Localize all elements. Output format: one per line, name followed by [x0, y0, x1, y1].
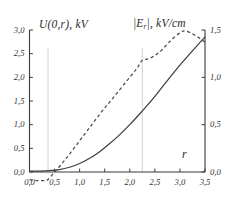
plot-canvas — [0, 0, 236, 201]
left-tick-label-1: 0,5 — [8, 143, 25, 153]
x-tick-label-0: 0,0 — [20, 177, 40, 187]
series-u-solid-line — [30, 37, 206, 171]
x-tick-label-1: 0,5 — [45, 177, 65, 187]
left-tick-label-4: 2,0 — [8, 72, 25, 82]
x-tick-label-2: 1,0 — [70, 177, 90, 187]
x-tick-label-7: 3,5 — [195, 177, 215, 187]
axis-layer — [30, 30, 206, 172]
right-tick-label-0: 0,0 — [210, 167, 228, 177]
right-tick-label-2: 1,0 — [210, 72, 228, 82]
left-tick-label-0: 0,0 — [8, 167, 25, 177]
x-tick-label-4: 2,0 — [120, 177, 140, 187]
x-tick-label-3: 1,5 — [95, 177, 115, 187]
figure-container: U(0,r), kV |Er|, kV/cm r 0,00,51,01,52,0… — [0, 0, 236, 201]
x-tick-label-6: 3,0 — [170, 177, 190, 187]
left-tick-label-3: 1,5 — [8, 96, 25, 106]
right-tick-label-1: 0,5 — [210, 119, 228, 129]
right-tick-label-3: 1,5 — [210, 25, 228, 35]
left-tick-label-5: 2,5 — [8, 48, 25, 58]
x-tick-label-5: 2,5 — [145, 177, 165, 187]
gridline-layer — [48, 48, 142, 172]
series-efield-dashed-line — [30, 31, 206, 181]
left-axis-title: U(0,r), kV — [39, 18, 88, 30]
right-axis-title-tail: |, kV/cm — [147, 17, 186, 29]
right-axis-title-main: |E — [133, 17, 144, 29]
left-tick-label-2: 1,0 — [8, 119, 25, 129]
x-axis-title: r — [182, 147, 187, 162]
left-tick-label-6: 3,0 — [8, 25, 25, 35]
right-axis-title: |Er|, kV/cm — [133, 17, 186, 31]
